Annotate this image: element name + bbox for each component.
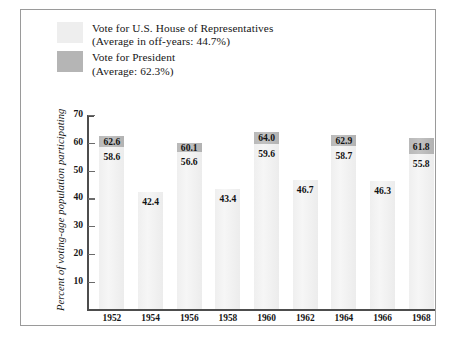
x-axis-tick-label-1966: 1966: [370, 313, 395, 323]
y-axis-tick-label-60: 60: [73, 136, 83, 147]
legend-label-house-line1: Vote for U.S. House of Representatives: [92, 22, 273, 34]
bar-value-house-1952: 58.6: [99, 151, 124, 162]
y-axis-tick-40: 40: [88, 198, 95, 199]
y-axis-tick-30: 30: [88, 226, 95, 227]
y-axis-tick-label-50: 50: [73, 164, 83, 175]
bar-house-1958: [215, 189, 240, 310]
bar-house-1964: [331, 146, 356, 309]
legend-label-house-line2: (Average in off-years: 44.7%): [92, 35, 230, 47]
bar-value-president-1956: 60.1: [177, 142, 202, 153]
y-axis-title: Percent of voting-age population partici…: [55, 115, 66, 311]
x-axis-tick-label-1956: 1956: [177, 313, 202, 323]
y-axis-tick-10: 10: [88, 282, 95, 283]
bar-house-1952: [99, 147, 124, 310]
bar-group-1954[interactable]: 42.41954: [138, 113, 163, 309]
plot-area: 70605040302010 62.658.6195242.4195460.15…: [87, 115, 437, 311]
y-axis-tick-20: 20: [88, 254, 95, 255]
y-axis-tick-70: 70: [88, 115, 95, 116]
legend-label-president: Vote for President (Average: 62.3%): [92, 51, 175, 77]
bar-house-1966: [370, 181, 395, 310]
bar-group-1960[interactable]: 64.059.61960: [254, 113, 279, 309]
y-axis-tick-50: 50: [88, 171, 95, 172]
x-axis-tick-label-1962: 1962: [293, 313, 318, 323]
bar-value-house-1956: 56.6: [177, 156, 202, 167]
y-axis-title-holder: Percent of voting-age population partici…: [55, 115, 69, 311]
legend-label-president-line2: (Average: 62.3%): [92, 65, 174, 77]
bar-value-house-1962: 46.7: [293, 184, 318, 195]
y-axis-tick-60: 60: [88, 143, 95, 144]
bar-house-1962: [293, 180, 318, 310]
bar-value-house-1960: 59.6: [254, 148, 279, 159]
bar-group-1964[interactable]: 62.958.71964: [331, 113, 356, 309]
x-axis-tick-label-1954: 1954: [138, 313, 163, 323]
bar-group-1962[interactable]: 46.71962: [293, 113, 318, 309]
chart-frame: Vote for U.S. House of Representatives (…: [20, 9, 436, 326]
bar-value-president-1964: 62.9: [331, 135, 356, 146]
bar-group-1952[interactable]: 62.658.61952: [99, 113, 124, 309]
bar-value-house-1958: 43.4: [215, 193, 240, 204]
chart-legend: Vote for U.S. House of Representatives (…: [57, 22, 273, 81]
bar-house-1968: [409, 154, 434, 309]
legend-swatch-president-icon: [57, 51, 83, 72]
legend-item-house: Vote for U.S. House of Representatives (…: [57, 22, 273, 48]
bar-group-1956[interactable]: 60.156.61956: [177, 113, 202, 309]
x-axis-tick-label-1958: 1958: [215, 313, 240, 323]
bar-value-house-1954: 42.4: [138, 196, 163, 207]
legend-label-house: Vote for U.S. House of Representatives (…: [92, 22, 273, 48]
legend-item-president: Vote for President (Average: 62.3%): [57, 51, 273, 77]
bar-value-president-1968: 61.8: [409, 141, 434, 152]
x-axis-tick-label-1964: 1964: [331, 313, 356, 323]
y-axis-tick-label-30: 30: [73, 219, 83, 230]
bar-house-1954: [138, 192, 163, 310]
bar-value-house-1966: 46.3: [370, 185, 395, 196]
x-axis-tick-label-1960: 1960: [254, 313, 279, 323]
y-axis-tick-label-20: 20: [73, 247, 83, 258]
x-axis-line: [87, 309, 435, 311]
legend-swatch-house-icon: [57, 22, 83, 43]
bar-value-president-1952: 62.6: [99, 136, 124, 147]
bar-value-house-1968: 55.8: [409, 158, 434, 169]
bar-value-house-1964: 58.7: [331, 150, 356, 161]
x-axis-tick-label-1968: 1968: [409, 313, 434, 323]
bar-group-1968[interactable]: 61.855.81968: [409, 113, 434, 309]
bar-house-1956: [177, 152, 202, 309]
bar-group-1958[interactable]: 43.41958: [215, 113, 240, 309]
bar-value-president-1960: 64.0: [254, 132, 279, 143]
legend-label-president-line1: Vote for President: [92, 51, 175, 63]
x-axis-tick-label-1952: 1952: [99, 313, 124, 323]
bar-house-1960: [254, 144, 279, 310]
y-axis-tick-label-70: 70: [73, 108, 83, 119]
y-axis-tick-label-40: 40: [73, 191, 83, 202]
bar-group-1966[interactable]: 46.31966: [370, 113, 395, 309]
y-axis-tick-label-10: 10: [73, 275, 83, 286]
